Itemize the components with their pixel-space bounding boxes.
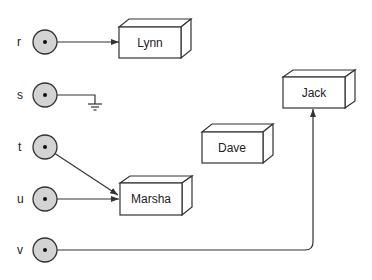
edge-t-marsha (45, 147, 118, 195)
node-label-t: t (18, 140, 22, 154)
box-label-marsha: Marsha (131, 192, 171, 206)
node-label-u: u (17, 192, 24, 206)
box-label-lynn: Lynn (137, 36, 163, 50)
box-label-dave: Dave (218, 141, 246, 155)
node-label-r: r (17, 35, 21, 49)
box-label-jack: Jack (302, 86, 328, 100)
node-label-v: v (17, 243, 23, 257)
node-label-s: s (17, 88, 23, 102)
diagram-canvas: r s t u v (0, 0, 372, 280)
